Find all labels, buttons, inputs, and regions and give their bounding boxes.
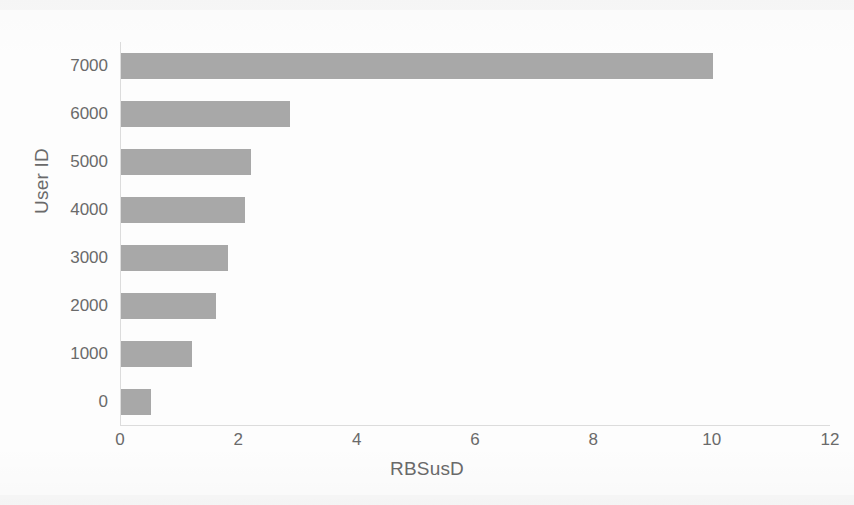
x-axis-title: RBSusD — [0, 458, 854, 480]
x-tick-label-6: 6 — [445, 431, 505, 448]
bar-5000 — [121, 149, 251, 175]
bar-1000 — [121, 341, 192, 367]
y-tick-label-5000: 5000 — [12, 153, 120, 170]
y-tick-label-1000: 1000 — [12, 345, 120, 362]
plot-area — [120, 42, 830, 426]
x-tick-label-12: 12 — [800, 431, 854, 448]
bar-2000 — [121, 293, 216, 319]
bar-6000 — [121, 101, 290, 127]
x-tick-label-2: 2 — [208, 431, 268, 448]
y-tick-label-3000: 3000 — [12, 249, 120, 266]
bar-0 — [121, 389, 151, 415]
y-tick-label-6000: 6000 — [12, 105, 120, 122]
scan-edge-top — [0, 0, 854, 10]
scan-edge-bottom — [0, 495, 854, 505]
x-tick-label-4: 4 — [327, 431, 387, 448]
bar-4000 — [121, 197, 245, 223]
y-tick-label-0: 0 — [12, 393, 120, 410]
y-tick-label-7000: 7000 — [12, 57, 120, 74]
x-tick-label-8: 8 — [563, 431, 623, 448]
y-tick-label-4000: 4000 — [12, 201, 120, 218]
x-tick-label-0: 0 — [90, 431, 150, 448]
x-tick-label-10: 10 — [682, 431, 742, 448]
x-axis-tick-labels: 024681012 — [0, 431, 854, 459]
bar-3000 — [121, 245, 228, 271]
y-tick-label-2000: 2000 — [12, 297, 120, 314]
bar-7000 — [121, 53, 713, 79]
y-axis-tick-labels: 70006000500040003000200010000 — [0, 42, 120, 426]
bar-chart-figure: User ID 70006000500040003000200010000 02… — [0, 0, 854, 505]
